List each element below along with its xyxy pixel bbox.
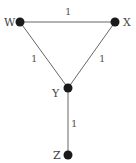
weight-w-y: 1 [31,53,37,64]
node-w [16,18,25,27]
edge-x-y [68,22,115,88]
node-x [111,18,120,27]
node-label-w: W [4,16,16,29]
weight-w-x: 1 [65,6,71,17]
node-label-z: Z [53,149,61,162]
node-label-y: Y [51,87,60,100]
graph-diagram: 1 1 1 1 W X Y Z [0,0,136,163]
weight-x-y: 1 [99,53,105,64]
weight-y-z: 1 [71,118,77,129]
node-z [64,151,73,160]
node-y [64,84,73,93]
node-label-x: X [123,16,131,29]
edge-w-y [20,22,68,88]
